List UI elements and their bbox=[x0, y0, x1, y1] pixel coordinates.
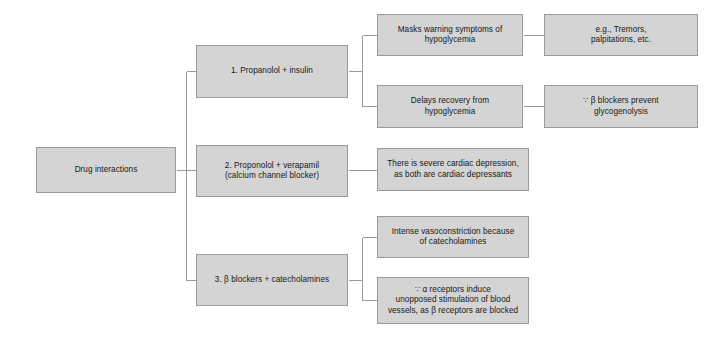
node-propanolol-insulin[interactable]: 1. Propanolol + insulin bbox=[196, 45, 348, 98]
node-beta-blockers-catecholamines[interactable]: 3. β blockers + catecholamines bbox=[196, 254, 348, 306]
node-delays-recovery[interactable]: Delays recovery from hypoglycemia bbox=[377, 85, 523, 128]
node-proponolol-verapamil[interactable]: 2. Proponolol + verapamil (calcium chann… bbox=[196, 145, 348, 197]
node-severe-cardiac-depression[interactable]: There is severe cardiac depression, as b… bbox=[377, 148, 529, 191]
node-tremors-palpitations[interactable]: e.g., Tremors, palpitations, etc. bbox=[544, 14, 698, 56]
node-masks-warning-symptoms[interactable]: Masks warning symptoms of hypoglycemia bbox=[377, 14, 523, 56]
node-prevent-glycogenolysis[interactable]: ∵ β blockers prevent glycogenolysis bbox=[544, 85, 698, 128]
node-intense-vasoconstriction[interactable]: Intense vasoconstriction because of cate… bbox=[377, 216, 529, 258]
flowchart-canvas: Drug interactions 1. Propanolol + insuli… bbox=[0, 0, 723, 338]
node-drug-interactions[interactable]: Drug interactions bbox=[36, 147, 176, 193]
node-alpha-receptors-unopposed[interactable]: ∵ α receptors induce unopposed stimulati… bbox=[377, 277, 529, 324]
